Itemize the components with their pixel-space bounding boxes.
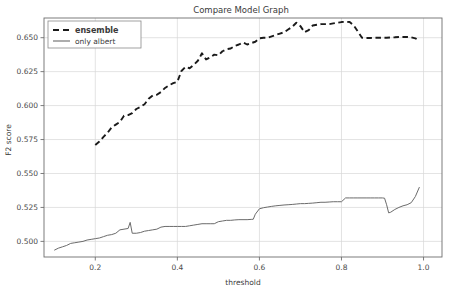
chart-legend[interactable]: ensemble only albert: [48, 21, 141, 48]
legend-label-only-albert: only albert: [75, 37, 115, 46]
x-tick-label: 1.0: [418, 263, 430, 272]
chart-figure: Compare Model Graph 0.20.40.60.81.0 0.50…: [0, 0, 458, 294]
y-tick-label: 0.500: [17, 237, 39, 246]
chart-title: Compare Model Graph: [193, 5, 289, 15]
y-tick-label: 0.550: [17, 169, 39, 178]
chart-canvas: Compare Model Graph 0.20.40.60.81.0 0.50…: [0, 0, 458, 294]
y-tick-label: 0.600: [17, 101, 39, 110]
x-axis-label: threshold: [225, 278, 261, 287]
y-tick-label: 0.650: [17, 33, 39, 42]
y-tick-label: 0.625: [17, 67, 39, 76]
x-tick-label: 0.6: [253, 263, 265, 272]
x-tick-label: 0.2: [89, 263, 101, 272]
x-tick-label: 0.8: [336, 263, 348, 272]
x-tick-label: 0.4: [171, 263, 183, 272]
y-tick-label: 0.575: [17, 135, 39, 144]
legend-label-ensemble: ensemble: [75, 26, 119, 35]
y-tick-label: 0.525: [17, 203, 39, 212]
y-axis-label: F2 score: [4, 124, 13, 156]
